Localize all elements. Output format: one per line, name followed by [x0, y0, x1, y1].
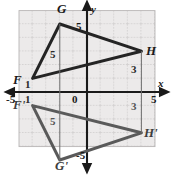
tick-y-5: 5 — [76, 21, 82, 32]
x-axis-label: x — [158, 78, 164, 89]
measure-f-height-image: 1 — [25, 94, 31, 105]
measure-h-height-image: 3 — [131, 101, 137, 112]
vertex-label-h: H — [146, 44, 156, 57]
measure-g-height: 5 — [50, 49, 56, 60]
vertex-label-g: G — [57, 2, 66, 15]
measure-f-height: 1 — [25, 79, 31, 90]
vertex-label-g-prime: G' — [55, 159, 68, 172]
tick-origin: 0 — [72, 94, 78, 105]
vertex-label-h-prime: H' — [144, 126, 158, 139]
measure-g-height-image: 5 — [50, 116, 56, 127]
vertex-label-f: F — [13, 73, 22, 86]
measure-h-height: 3 — [131, 64, 137, 75]
coordinate-plane-figure: G F H F' G' H' x y 5 -5 -5 5 0 1 1 5 5 3… — [0, 0, 174, 175]
y-axis-label: y — [91, 4, 96, 15]
tick-x-neg5: -5 — [6, 94, 15, 105]
tick-x-5: 5 — [151, 94, 157, 105]
tick-y-neg5: -5 — [76, 150, 85, 161]
